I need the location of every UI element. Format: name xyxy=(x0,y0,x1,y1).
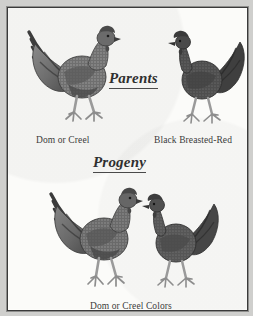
heading-parents-label: Parents xyxy=(109,70,158,89)
caption-dom-or-creel: Dom or Creel xyxy=(36,135,89,145)
figure-page: Parents Dom or Creel Black Breasted-Red … xyxy=(0,0,253,316)
caption-black-breasted-red: Black Breasted-Red xyxy=(154,135,232,145)
illustration-progeny-hen xyxy=(136,188,222,296)
heading-parents: Parents xyxy=(109,70,158,89)
heading-progeny: Progeny xyxy=(93,154,146,173)
heading-progeny-label: Progeny xyxy=(93,154,146,173)
illustration-black-breasted-red-hen xyxy=(160,28,248,130)
caption-progeny-colors: Dom or Creel Colors xyxy=(90,301,172,311)
illustration-progeny-rooster xyxy=(44,180,144,296)
figure-card: Parents Dom or Creel Black Breasted-Red … xyxy=(7,7,248,311)
